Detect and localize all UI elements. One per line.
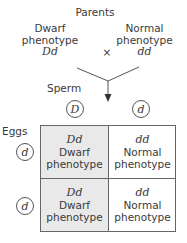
cell-phenotype-line2: phenotype [46, 158, 102, 170]
punnett-cell-r2c1: Dd Dwarf phenotype [41, 179, 109, 231]
egg-allele-1: d [16, 143, 34, 161]
sperm-label: Sperm [47, 82, 81, 94]
eggs-label: Eggs [2, 125, 27, 137]
cell-phenotype-line1: Normal [124, 146, 162, 158]
cell-phenotype-line1: Dwarf [59, 146, 90, 158]
sperm-allele-d: d [132, 100, 150, 118]
egg-allele-2: d [16, 197, 34, 215]
cell-phenotype-line2: phenotype [46, 211, 102, 223]
sperm-allele-D: D [66, 100, 84, 118]
punnett-square: Dd Dwarf phenotype dd Normal phenotype D… [40, 125, 176, 232]
punnett-cell-r1c2: dd Normal phenotype [109, 126, 176, 179]
cell-phenotype-line2: phenotype [114, 158, 170, 170]
cell-genotype: Dd [67, 134, 83, 146]
cell-phenotype-line2: phenotype [114, 211, 170, 223]
punnett-cell-r2c2: dd Normal phenotype [109, 179, 176, 231]
cell-phenotype-line1: Dwarf [59, 199, 90, 211]
cell-genotype: Dd [67, 187, 83, 199]
punnett-cell-r1c1: Dd Dwarf phenotype [41, 126, 109, 179]
cell-genotype: dd [135, 134, 149, 146]
cell-genotype: dd [135, 187, 149, 199]
cell-phenotype-line1: Normal [124, 199, 162, 211]
